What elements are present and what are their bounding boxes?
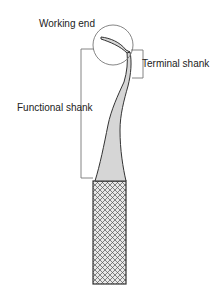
working-end-circle [93,25,133,65]
working-end-tip [101,37,130,53]
instrument-diagram: Working end Terminal shank Functional sh… [0,0,221,294]
label-working-end: Working end [39,19,95,29]
handle [93,181,126,284]
label-functional-shank: Functional shank [17,103,93,113]
label-terminal-shank: Terminal shank [142,59,209,69]
functional-shank-bracket [81,49,94,178]
functional-shank [95,52,131,181]
instrument-illustration [0,0,221,294]
